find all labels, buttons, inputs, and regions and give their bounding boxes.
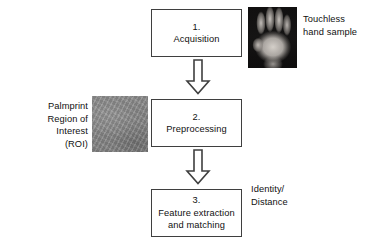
flowchart-diagram: 1. Acquisition 2. Preprocessing 3. Featu… (0, 0, 367, 242)
arrow-down-icon-preprocessing-to-feature-extraction (185, 149, 211, 185)
caption-palmprint-region-of-interest: Palmprint Region of Interest (ROI) (18, 100, 88, 150)
process-box-preprocessing-number: 2. (193, 111, 201, 123)
caption-identity-distance-output: Identity/ Distance (251, 183, 321, 208)
arrow-down-icon-acquisition-to-preprocessing (185, 59, 211, 95)
process-box-feature-label: Feature extraction and matching (152, 207, 241, 232)
process-box-preprocessing: 2. Preprocessing (151, 99, 242, 147)
palmprint-roi-image (92, 96, 148, 152)
process-box-feature-extraction-and-matching: 3. Feature extraction and matching (151, 189, 242, 237)
process-box-preprocessing-label: Preprocessing (166, 123, 226, 135)
touchless-hand-sample-image (248, 7, 297, 68)
process-box-acquisition-number: 1. (193, 21, 201, 33)
process-box-acquisition: 1. Acquisition (151, 9, 242, 57)
process-box-acquisition-label: Acquisition (174, 33, 220, 45)
caption-touchless-hand-sample: Touchless hand sample (303, 13, 365, 38)
process-box-feature-number: 3. (193, 194, 201, 206)
